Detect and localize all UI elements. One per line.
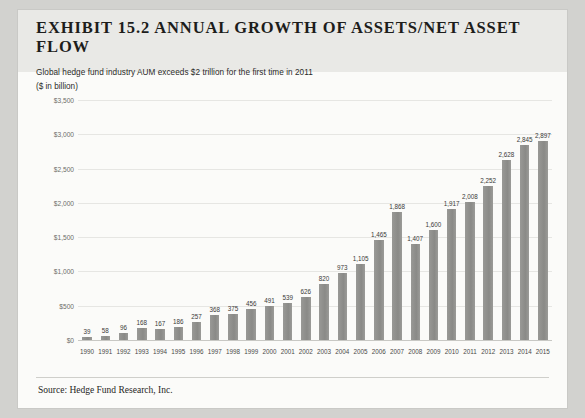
bar-value-label: 2,897 bbox=[534, 132, 552, 139]
gridline bbox=[78, 134, 552, 135]
bar bbox=[465, 202, 474, 340]
x-axis-tick-label: 1999 bbox=[242, 348, 260, 355]
bar bbox=[155, 329, 164, 340]
bar bbox=[520, 145, 529, 340]
bar bbox=[228, 314, 237, 340]
bar-value-label: 2,628 bbox=[497, 151, 515, 158]
page-background: EXHIBIT 15.2 ANNUAL GROWTH OF ASSETS/NET… bbox=[0, 0, 585, 418]
x-axis-tick-label: 1996 bbox=[187, 348, 205, 355]
bar-value-label: 2,845 bbox=[516, 136, 534, 143]
bar bbox=[192, 322, 201, 340]
x-axis-tick-label: 2009 bbox=[424, 348, 442, 355]
x-axis-tick-label: 2014 bbox=[516, 348, 534, 355]
bar bbox=[246, 309, 255, 340]
source-note: Source: Hedge Fund Research, Inc. bbox=[38, 385, 173, 395]
x-axis-tick-label: 2008 bbox=[406, 348, 424, 355]
gridline bbox=[78, 169, 552, 170]
x-axis-tick-label: 1995 bbox=[169, 348, 187, 355]
y-axis-tick-label: $3,000 bbox=[34, 131, 74, 138]
x-axis-tick-label: 1994 bbox=[151, 348, 169, 355]
gridline bbox=[78, 203, 552, 204]
gridline bbox=[78, 100, 552, 101]
bar-value-label: 1,407 bbox=[406, 235, 424, 242]
x-axis-tick-label: 2001 bbox=[279, 348, 297, 355]
x-axis-tick-label: 2013 bbox=[497, 348, 515, 355]
bar-value-label: 257 bbox=[187, 313, 205, 320]
bar bbox=[101, 336, 110, 340]
bar-value-label: 1,600 bbox=[424, 221, 442, 228]
bar bbox=[265, 306, 274, 340]
bar-value-label: 368 bbox=[206, 306, 224, 313]
y-axis-tick-label: $500 bbox=[34, 302, 74, 309]
exhibit-title: EXHIBIT 15.2 ANNUAL GROWTH OF ASSETS/NET… bbox=[36, 18, 556, 56]
gridline bbox=[78, 271, 552, 272]
x-axis-line bbox=[78, 340, 552, 341]
x-axis-tick-label: 2007 bbox=[388, 348, 406, 355]
bar bbox=[392, 212, 401, 340]
bar-value-label: 491 bbox=[260, 297, 278, 304]
y-axis-tick-label: $1,000 bbox=[34, 268, 74, 275]
bar-value-label: 973 bbox=[333, 264, 351, 271]
bar bbox=[483, 186, 492, 340]
bar bbox=[538, 141, 547, 340]
bar bbox=[137, 328, 146, 340]
bar-value-label: 456 bbox=[242, 300, 260, 307]
bar-value-label: 186 bbox=[169, 318, 187, 325]
x-axis-tick-label: 1991 bbox=[96, 348, 114, 355]
bar-value-label: 96 bbox=[114, 324, 132, 331]
bar-value-label: 1,465 bbox=[370, 231, 388, 238]
x-axis-tick-label: 2004 bbox=[333, 348, 351, 355]
bar bbox=[502, 160, 511, 340]
bar bbox=[283, 303, 292, 340]
x-axis-tick-label: 2012 bbox=[479, 348, 497, 355]
x-axis-tick-label: 1998 bbox=[224, 348, 242, 355]
x-axis-tick-label: 2015 bbox=[534, 348, 552, 355]
bar bbox=[119, 333, 128, 340]
bar-value-label: 2,008 bbox=[461, 193, 479, 200]
bar bbox=[210, 315, 219, 340]
y-axis-labels: $0$500$1,000$1,500$2,000$2,500$3,000$3,5… bbox=[36, 100, 74, 340]
exhibit-subtitle: Global hedge fund industry AUM exceeds $… bbox=[36, 68, 313, 77]
bar bbox=[411, 244, 420, 340]
y-axis-tick-label: $2,000 bbox=[34, 199, 74, 206]
bar-value-label: 167 bbox=[151, 320, 169, 327]
bar bbox=[447, 209, 456, 340]
x-axis-tick-label: 2000 bbox=[260, 348, 278, 355]
bar-value-label: 539 bbox=[279, 294, 297, 301]
bar-value-label: 1,868 bbox=[388, 203, 406, 210]
bar bbox=[174, 327, 183, 340]
bar-value-label: 39 bbox=[78, 328, 96, 335]
x-axis-tick-label: 1993 bbox=[133, 348, 151, 355]
y-axis-tick-label: $2,500 bbox=[34, 165, 74, 172]
bar bbox=[356, 264, 365, 340]
y-axis-tick-label: $3,500 bbox=[34, 97, 74, 104]
x-axis-tick-label: 1992 bbox=[114, 348, 132, 355]
plot-region: 3919905819919619921681993167199418619952… bbox=[78, 100, 552, 340]
exhibit-card: EXHIBIT 15.2 ANNUAL GROWTH OF ASSETS/NET… bbox=[18, 10, 567, 408]
y-axis-tick-label: $1,500 bbox=[34, 234, 74, 241]
x-axis-tick-label: 2005 bbox=[351, 348, 369, 355]
y-axis-tick-label: $0 bbox=[34, 337, 74, 344]
chart-area: $0$500$1,000$1,500$2,000$2,500$3,000$3,5… bbox=[36, 96, 552, 368]
gridline bbox=[78, 237, 552, 238]
x-axis-tick-label: 2003 bbox=[315, 348, 333, 355]
exhibit-units: ($ in billion) bbox=[36, 82, 78, 91]
bar bbox=[374, 240, 383, 340]
x-axis-tick-label: 1997 bbox=[206, 348, 224, 355]
bar-value-label: 2,252 bbox=[479, 177, 497, 184]
bar-value-label: 58 bbox=[96, 327, 114, 334]
x-axis-tick-label: 2011 bbox=[461, 348, 479, 355]
bar bbox=[319, 284, 328, 340]
bar-value-label: 1,105 bbox=[351, 255, 369, 262]
x-axis-tick-label: 2006 bbox=[370, 348, 388, 355]
x-axis-tick-label: 2010 bbox=[443, 348, 461, 355]
gridline bbox=[78, 306, 552, 307]
bar-value-label: 375 bbox=[224, 305, 242, 312]
bar-value-label: 1,917 bbox=[443, 200, 461, 207]
bar bbox=[429, 230, 438, 340]
x-axis-tick-label: 1990 bbox=[78, 348, 96, 355]
bar bbox=[301, 297, 310, 340]
bar-value-label: 168 bbox=[133, 319, 151, 326]
x-axis-tick-label: 2002 bbox=[297, 348, 315, 355]
bar bbox=[338, 273, 347, 340]
